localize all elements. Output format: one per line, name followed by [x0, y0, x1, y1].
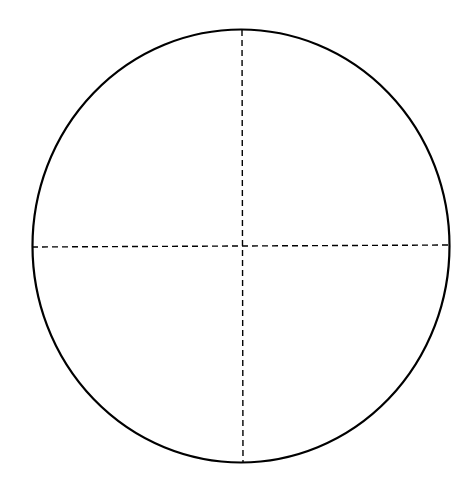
circle-crosshair-diagram	[0, 0, 473, 495]
diagram-background	[0, 0, 473, 495]
